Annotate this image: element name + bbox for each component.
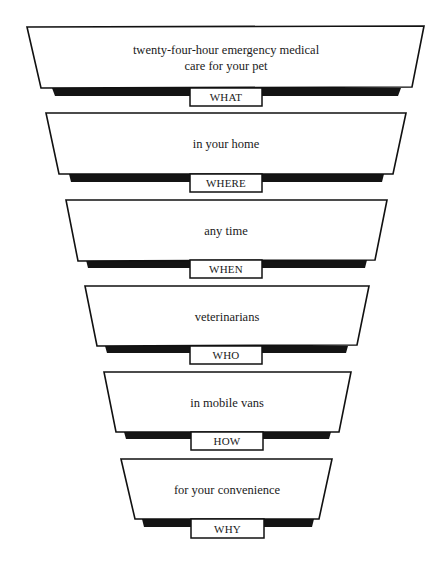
stage-text-when: any time (78, 203, 374, 259)
stage-text-line1: twenty-four-hour emergency medical (133, 42, 319, 58)
stage-label-who: WHO (190, 346, 262, 364)
stage-text-how: in mobile vans (114, 375, 340, 431)
stage-label-where: WHERE (190, 174, 262, 192)
stage-label-why: WHY (191, 519, 264, 538)
stage-label-how: HOW (191, 432, 263, 450)
stage-label-when: WHEN (190, 260, 262, 278)
stage-text-line2: care for your pet (185, 58, 268, 74)
stage-text-who: veterinarians (96, 289, 358, 345)
stage-text-what: twenty-four-hour emergency medical care … (40, 30, 412, 86)
stage-label-what: WHAT (190, 88, 262, 106)
stage-text-why: for your convenience (132, 462, 322, 518)
stage-text-where: in your home (58, 116, 394, 172)
